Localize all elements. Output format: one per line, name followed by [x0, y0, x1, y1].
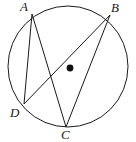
vertex-label-c: C	[61, 128, 70, 141]
chord-AD	[24, 14, 32, 104]
geometry-canvas	[0, 0, 136, 142]
circle-geometry-figure: A B C D	[0, 0, 136, 142]
chord-BC	[66, 15, 110, 127]
chord-AC	[32, 14, 66, 127]
center-dot	[67, 65, 74, 72]
vertex-label-d: D	[10, 106, 19, 119]
vertex-label-b: B	[111, 1, 119, 14]
chord-DB	[24, 15, 110, 104]
vertex-label-a: A	[20, 0, 28, 13]
